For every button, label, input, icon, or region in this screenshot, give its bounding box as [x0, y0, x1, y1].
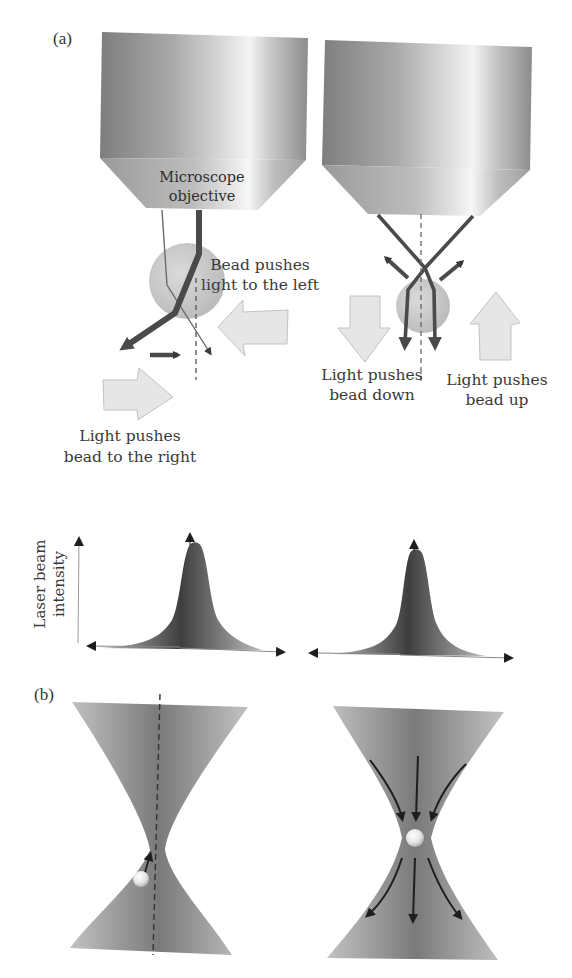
left-lateral-trap: Bead pushes light to the left Light push…	[64, 210, 320, 466]
left-objective: Microscope objective	[100, 32, 308, 210]
light-pushes-bead-right-arrow	[103, 368, 173, 420]
light-pushes-bead-right-text-2: bead to the right	[64, 448, 197, 466]
panel-a-label: (a)	[53, 29, 72, 48]
intensity-axis-label-2: intensity	[50, 550, 68, 617]
intensity-y-axis	[78, 540, 79, 643]
bead-pushes-light-left-arrow	[218, 300, 288, 356]
left-gaussian-profile	[100, 542, 262, 650]
light-pushes-bead-right-text-1: Light pushes	[79, 427, 180, 445]
right-gaussian-profile	[330, 549, 486, 656]
reflected-arrow-right	[440, 262, 462, 280]
right-beam-focus	[327, 706, 504, 960]
bead	[396, 279, 450, 333]
light-pushes-bead-down-text-1: Light pushes	[321, 366, 422, 384]
intensity-axis-label-1: Laser beam	[31, 539, 49, 628]
optical-trap-figure: (a) Microscope objective Bead pushes lig…	[0, 0, 572, 978]
light-pushes-bead-down-text-2: bead down	[329, 386, 415, 404]
trapped-bead	[406, 829, 424, 847]
light-pushes-bead-down-arrow	[338, 296, 390, 362]
right-axial-trap: Light pushes bead down Light pushes bead…	[321, 214, 547, 409]
panel-b-label: (b)	[34, 685, 54, 704]
left-beam-focus	[70, 694, 248, 955]
intensity-profiles: Laser beam intensity	[31, 536, 510, 658]
right-objective	[322, 40, 532, 216]
objective-label-line2: objective	[169, 188, 235, 204]
light-pushes-bead-up-text-2: bead up	[465, 391, 528, 409]
bead-pushes-light-text-1: Bead pushes	[210, 256, 310, 274]
light-pushes-bead-up-arrow	[470, 292, 520, 360]
bead-pushes-light-text-2: light to the left	[201, 276, 320, 294]
light-pushes-bead-up-text-1: Light pushes	[446, 371, 547, 389]
trapped-bead	[133, 871, 149, 887]
objective-label-line1: Microscope	[159, 169, 244, 185]
reflected-arrow-left	[386, 258, 408, 278]
